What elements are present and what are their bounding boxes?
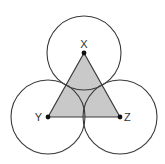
label-z: Z xyxy=(124,111,131,123)
point-x xyxy=(82,51,87,56)
label-x: X xyxy=(80,38,88,50)
diagram-canvas: X Y Z xyxy=(0,0,165,164)
label-y: Y xyxy=(35,111,43,123)
point-z xyxy=(118,115,123,120)
point-y xyxy=(46,115,51,120)
geometry-diagram: X Y Z xyxy=(0,0,165,164)
